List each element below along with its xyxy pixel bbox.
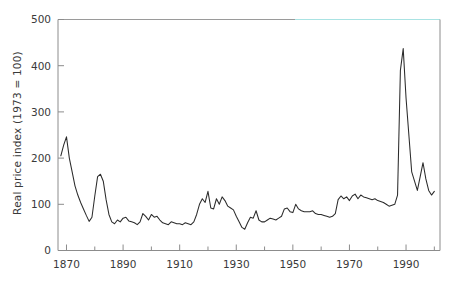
x-axis-tick-label: 1930 xyxy=(223,258,250,270)
line-chart-plot: 0100200300400500187018901910193019501970… xyxy=(0,0,461,293)
y-axis-tick-label: 400 xyxy=(31,60,51,72)
y-axis-tick-label: 0 xyxy=(44,244,51,256)
x-axis-tick-label: 1870 xyxy=(53,258,80,270)
x-axis-tick-label: 1890 xyxy=(110,258,137,270)
y-axis-tick-label: 200 xyxy=(31,152,51,164)
y-axis-tick-label: 500 xyxy=(31,13,51,25)
x-axis-tick-label: 1990 xyxy=(393,258,420,270)
x-axis-tick-label: 1950 xyxy=(279,258,306,270)
y-axis-tick-label: 100 xyxy=(31,198,51,210)
chart-figure: Real price index (1973 = 100) 0100200300… xyxy=(0,0,461,293)
data-line-real-price-index xyxy=(61,49,435,230)
x-axis-tick-label: 1910 xyxy=(166,258,193,270)
x-axis-tick-label: 1970 xyxy=(336,258,363,270)
y-axis-tick-label: 300 xyxy=(31,106,51,118)
